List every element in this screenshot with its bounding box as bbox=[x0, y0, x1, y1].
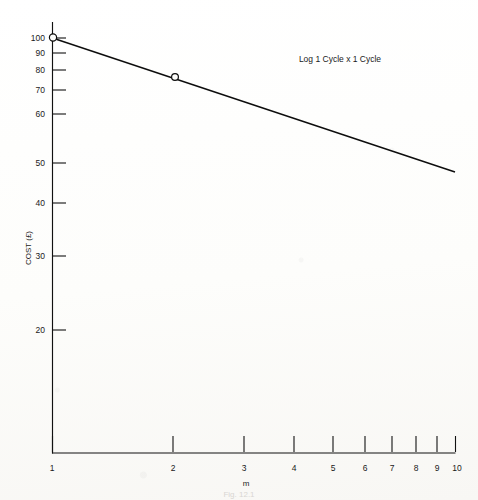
data-point-marker-2 bbox=[172, 74, 179, 81]
y-axis-title: COST (£) bbox=[24, 231, 33, 265]
y-tick-label-60: 60 bbox=[36, 109, 46, 119]
x-tick-label-2: 2 bbox=[171, 463, 176, 473]
x-tick-label-7: 7 bbox=[390, 463, 395, 473]
x-tick-label-3: 3 bbox=[242, 463, 247, 473]
x-axis-tick-labels: 1 2 3 4 5 6 7 8 9 10 bbox=[50, 463, 462, 473]
log-log-cost-chart: 100 90 80 70 60 50 40 30 20 COST (£) bbox=[0, 0, 478, 500]
y-tick-label-30: 30 bbox=[36, 251, 46, 261]
x-axis-title: m bbox=[243, 479, 250, 488]
x-tick-label-10: 10 bbox=[452, 463, 462, 473]
x-tick-label-1: 1 bbox=[50, 463, 55, 473]
y-tick-label-20: 20 bbox=[36, 325, 46, 335]
data-point-marker-1 bbox=[49, 34, 56, 41]
y-tick-label-100: 100 bbox=[31, 33, 45, 43]
cost-curve-line bbox=[53, 38, 456, 172]
y-tick-label-40: 40 bbox=[36, 198, 46, 208]
chart-page: 100 90 80 70 60 50 40 30 20 COST (£) bbox=[0, 0, 478, 500]
x-tick-label-9: 9 bbox=[435, 463, 440, 473]
x-tick-label-5: 5 bbox=[331, 463, 336, 473]
x-tick-label-8: 8 bbox=[414, 463, 419, 473]
chart-annotation: Log 1 Cycle x 1 Cycle bbox=[299, 54, 381, 64]
x-axis-ticks bbox=[53, 436, 456, 452]
y-tick-label-90: 90 bbox=[36, 48, 46, 58]
x-tick-label-6: 6 bbox=[363, 463, 368, 473]
axes bbox=[52, 22, 456, 454]
y-tick-label-80: 80 bbox=[36, 65, 46, 75]
y-axis-tick-labels: 100 90 80 70 60 50 40 30 20 bbox=[31, 33, 45, 335]
y-tick-label-70: 70 bbox=[36, 85, 46, 95]
y-axis-ticks bbox=[53, 38, 66, 330]
x-tick-label-4: 4 bbox=[292, 463, 297, 473]
figure-caption: Fig. 12.1 bbox=[223, 490, 255, 499]
y-tick-label-50: 50 bbox=[36, 158, 46, 168]
